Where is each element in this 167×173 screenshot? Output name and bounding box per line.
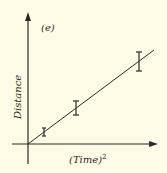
y-axis-arrow-icon bbox=[25, 12, 31, 21]
data-point bbox=[136, 52, 142, 71]
best-fit-line bbox=[28, 50, 154, 144]
x-axis-arrow-icon bbox=[149, 141, 158, 147]
chart-canvas: (e) (Time)2 Distance bbox=[0, 0, 167, 173]
x-axis-label: (Time)2 bbox=[69, 153, 107, 165]
y-axis-label: Distance bbox=[12, 75, 23, 120]
data-point bbox=[73, 101, 79, 115]
data-point bbox=[42, 128, 46, 136]
distance-time-squared-chart: (e) (Time)2 Distance bbox=[0, 0, 167, 173]
panel-label: (e) bbox=[41, 22, 55, 33]
